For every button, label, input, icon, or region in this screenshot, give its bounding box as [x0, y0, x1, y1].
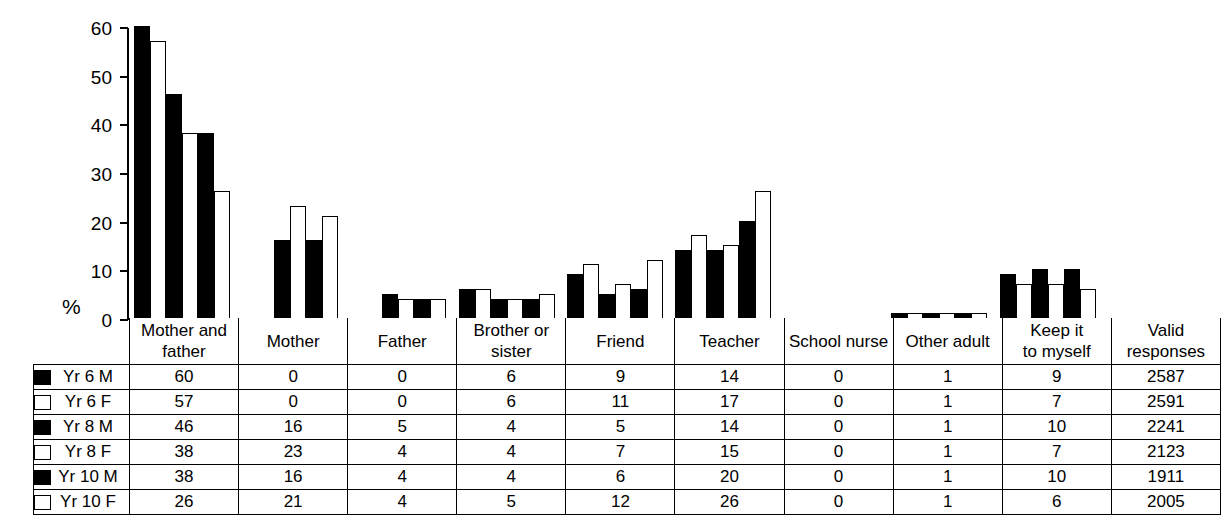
- bar-group: [994, 26, 1102, 318]
- column-header: Keep itto myself: [1002, 318, 1111, 365]
- bar: [134, 26, 150, 318]
- legend-swatch-filled-icon: [34, 470, 51, 485]
- legend-swatch-filled-icon: [34, 370, 51, 385]
- column-header-line: responses: [1112, 341, 1220, 362]
- table-cell: 4: [457, 440, 566, 465]
- data-table: Mother andfatherMotherFatherBrother orsi…: [33, 318, 1221, 515]
- table-cell: 5: [457, 490, 566, 515]
- table-cell: 5: [348, 415, 457, 440]
- table-cell: 2591: [1111, 390, 1220, 415]
- y-axis-tick: [120, 27, 128, 29]
- table-cell: 7: [1002, 440, 1111, 465]
- bar: [274, 240, 290, 318]
- y-axis-tick: [120, 270, 128, 272]
- table-cell: 2241: [1111, 415, 1220, 440]
- legend-swatch-outline-icon: [34, 495, 51, 510]
- bar: [182, 133, 198, 318]
- column-header-line: Father: [348, 331, 456, 352]
- bar: [430, 299, 446, 318]
- bar-group-bars: [675, 26, 771, 318]
- table-cell: 57: [129, 390, 238, 415]
- legend-label: Yr 10 M: [51, 465, 129, 489]
- table-cell: 2123: [1111, 440, 1220, 465]
- legend-row-cell: Yr 8 F: [34, 440, 130, 465]
- table-cell: 1: [893, 365, 1002, 390]
- legend-swatch-outline-icon: [34, 445, 51, 460]
- y-axis-tick-label: 10: [66, 262, 112, 281]
- legend-entry: Yr 8 F: [34, 441, 129, 463]
- column-header-line: father: [130, 341, 238, 362]
- bar: [491, 299, 507, 318]
- bar: [615, 284, 631, 318]
- table-cell: 4: [348, 490, 457, 515]
- bar: [1048, 284, 1064, 318]
- table-row: Yr 10 M38164462001101911: [34, 465, 1221, 490]
- legend-row-cell: Yr 8 M: [34, 415, 130, 440]
- table-cell: 7: [566, 440, 675, 465]
- bar: [150, 41, 166, 318]
- plot-area: [128, 0, 1210, 320]
- column-header-line: Mother and: [130, 320, 238, 341]
- y-axis-tick: [120, 76, 128, 78]
- bar: [707, 250, 723, 318]
- table-cell: 12: [566, 490, 675, 515]
- bar-group: [561, 26, 669, 318]
- legend-entry: Yr 6 F: [34, 391, 129, 413]
- table-cell: 1: [893, 415, 1002, 440]
- bar: [1032, 269, 1048, 318]
- y-axis-tick-label: 60: [66, 19, 112, 38]
- table-cell: 6: [1002, 490, 1111, 515]
- table-cell: 0: [784, 365, 893, 390]
- bar: [398, 299, 414, 318]
- table-cell: 0: [239, 365, 348, 390]
- column-header: School nurse: [784, 318, 893, 365]
- legend-entry: Yr 10 F: [34, 491, 129, 513]
- table-cell: 14: [675, 365, 784, 390]
- column-header: Father: [348, 318, 457, 365]
- legend-swatch-filled-icon: [34, 420, 51, 435]
- bar: [599, 294, 615, 318]
- bar: [214, 191, 230, 318]
- column-header-line: Other adult: [894, 331, 1002, 352]
- table-cell: 0: [348, 365, 457, 390]
- table-cell: 0: [239, 390, 348, 415]
- chart-page: % 6050403020100 Mother andfatherMotherFa…: [0, 0, 1221, 525]
- table-cell: 7: [1002, 390, 1111, 415]
- legend-label: Yr 10 F: [51, 490, 129, 514]
- table-cell: 1: [893, 390, 1002, 415]
- column-header-line: to myself: [1003, 341, 1111, 362]
- column-header-line: Teacher: [675, 331, 783, 352]
- table-cell: 9: [566, 365, 675, 390]
- legend-swatch-outline-icon: [34, 395, 51, 410]
- bar: [631, 289, 647, 318]
- bar: [539, 294, 555, 318]
- bar: [166, 94, 182, 318]
- bar: [459, 289, 475, 318]
- bar-group-bars: [783, 26, 879, 318]
- y-axis-tick: [120, 124, 128, 126]
- table-cell: 2587: [1111, 365, 1220, 390]
- table-cell: 6: [457, 365, 566, 390]
- column-header-line: Mother: [239, 331, 347, 352]
- table-cell: 16: [239, 465, 348, 490]
- y-axis-tick: [120, 173, 128, 175]
- table-row: Yr 6 F5700611170172591: [34, 390, 1221, 415]
- table-row: Yr 8 M46165451401102241: [34, 415, 1221, 440]
- bar-group: [236, 26, 344, 318]
- legend-label: Yr 6 F: [51, 390, 129, 414]
- legend-row-cell: Yr 6 M: [34, 365, 130, 390]
- bar-group-bars: [350, 26, 446, 318]
- legend-label: Yr 8 M: [51, 415, 129, 439]
- table-cell: 16: [239, 415, 348, 440]
- bar: [322, 216, 338, 318]
- table-cell: 17: [675, 390, 784, 415]
- y-axis-tick-label: 30: [66, 165, 112, 184]
- bar: [1000, 274, 1016, 318]
- column-header-line: Keep it: [1003, 320, 1111, 341]
- bar: [755, 191, 771, 318]
- column-header-line: School nurse: [785, 331, 893, 352]
- column-header: Brother orsister: [457, 318, 566, 365]
- bar-group: [885, 26, 993, 318]
- legend-entry: Yr 6 M: [34, 366, 129, 388]
- table-cell: 4: [348, 465, 457, 490]
